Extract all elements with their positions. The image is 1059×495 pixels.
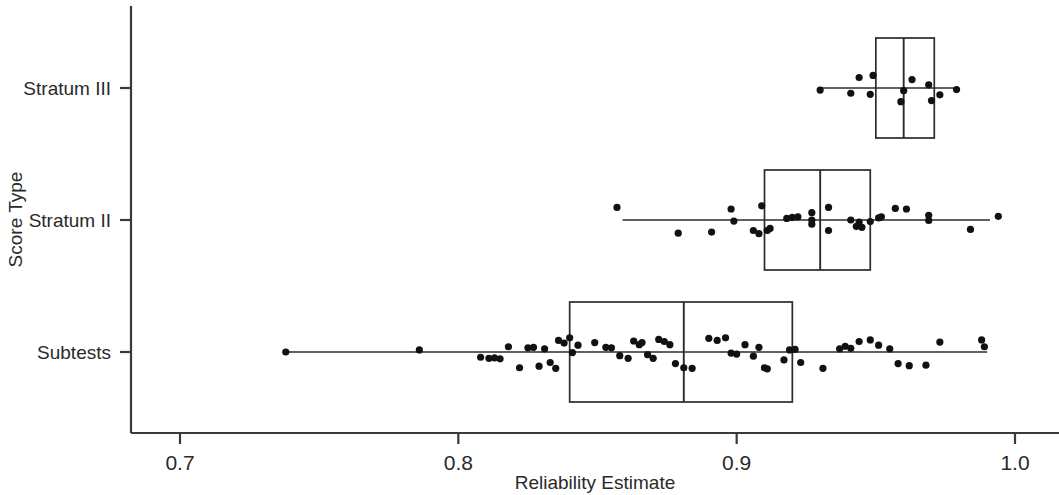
data-point	[847, 345, 854, 352]
data-point	[797, 359, 804, 366]
data-point	[547, 359, 554, 366]
data-point	[878, 213, 885, 220]
data-point	[705, 335, 712, 342]
data-point	[680, 364, 687, 371]
data-point	[967, 226, 974, 233]
data-point	[666, 341, 673, 348]
data-point	[856, 338, 863, 345]
data-point	[908, 76, 915, 83]
axis-labels-group: 0.70.80.91.0Stratum IIIStratum IISubtest…	[5, 78, 1030, 493]
data-point	[613, 204, 620, 211]
data-point	[995, 213, 1002, 220]
data-point	[574, 342, 581, 349]
y-axis-category-label: Stratum III	[23, 78, 111, 99]
x-axis-tick-label: 1.0	[1000, 451, 1029, 474]
data-point	[750, 353, 757, 360]
data-point	[755, 230, 762, 237]
data-point	[758, 202, 765, 209]
data-point	[895, 360, 902, 367]
data-point	[591, 339, 598, 346]
data-point	[858, 224, 865, 231]
data-point	[650, 355, 657, 362]
data-point	[794, 213, 801, 220]
data-point	[755, 344, 762, 351]
data-point	[638, 339, 645, 346]
data-point	[722, 334, 729, 341]
boxplot-subtests	[282, 302, 988, 402]
data-point	[906, 362, 913, 369]
data-point	[867, 336, 874, 343]
data-point	[928, 97, 935, 104]
x-axis-title: Reliability Estimate	[515, 472, 676, 493]
data-point	[689, 365, 696, 372]
data-point	[714, 337, 721, 344]
data-point	[672, 360, 679, 367]
y-axis-title: Score Type	[5, 172, 26, 268]
data-point	[847, 90, 854, 97]
data-point	[625, 355, 632, 362]
x-axis-tick-label: 0.8	[444, 451, 473, 474]
data-point	[847, 216, 854, 223]
boxplot-stratum-ii	[613, 170, 1002, 270]
data-point	[733, 351, 740, 358]
data-point	[566, 334, 573, 341]
data-point	[892, 205, 899, 212]
data-point	[616, 352, 623, 359]
y-axis-category-label: Stratum II	[29, 210, 111, 231]
data-point	[825, 204, 832, 211]
plot-canvas: 0.70.80.91.0Stratum IIIStratum IISubtest…	[0, 0, 1059, 495]
data-point	[869, 72, 876, 79]
data-point	[875, 342, 882, 349]
data-point	[282, 348, 289, 355]
data-point	[981, 343, 988, 350]
x-axis-tick-label: 0.7	[165, 451, 194, 474]
y-axis-category-label: Subtests	[37, 342, 111, 363]
data-point	[978, 336, 985, 343]
data-point	[541, 345, 548, 352]
data-point	[608, 344, 615, 351]
data-point	[730, 217, 737, 224]
boxplot-figure: 0.70.80.91.0Stratum IIIStratum IISubtest…	[0, 0, 1059, 495]
data-point	[552, 365, 559, 372]
data-point	[780, 356, 787, 363]
data-point	[867, 91, 874, 98]
data-point	[886, 345, 893, 352]
data-point	[936, 338, 943, 345]
data-point	[925, 217, 932, 224]
data-point	[416, 346, 423, 353]
boxplot-series-group	[282, 38, 1002, 402]
data-point	[808, 221, 815, 228]
data-point	[569, 349, 576, 356]
data-point	[505, 343, 512, 350]
data-point	[897, 98, 904, 105]
data-point	[516, 364, 523, 371]
data-point	[867, 218, 874, 225]
data-point	[900, 87, 907, 94]
data-point	[817, 87, 824, 94]
x-axis-tick-label: 0.9	[722, 451, 751, 474]
data-point	[477, 354, 484, 361]
data-point	[764, 227, 771, 234]
data-point	[792, 346, 799, 353]
axes-group	[120, 6, 1059, 444]
data-point	[922, 362, 929, 369]
data-point	[903, 205, 910, 212]
data-point	[708, 228, 715, 235]
data-point	[825, 227, 832, 234]
data-point	[764, 365, 771, 372]
data-point	[741, 341, 748, 348]
data-point	[936, 91, 943, 98]
data-point	[925, 81, 932, 88]
data-point	[808, 209, 815, 216]
boxplot-stratum-iii	[817, 38, 961, 138]
data-point	[856, 74, 863, 81]
data-point	[535, 363, 542, 370]
data-point	[728, 205, 735, 212]
data-point	[819, 365, 826, 372]
data-point	[561, 339, 568, 346]
data-point	[496, 355, 503, 362]
data-point	[953, 86, 960, 93]
data-point	[530, 344, 537, 351]
data-point	[675, 230, 682, 237]
